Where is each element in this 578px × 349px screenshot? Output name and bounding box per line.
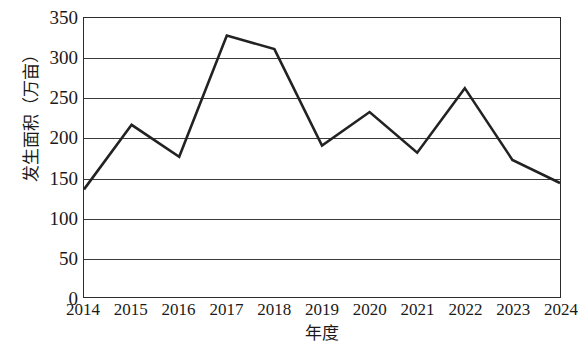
y-tick-label: 100: [30, 208, 78, 227]
y-tick-label: 250: [30, 88, 78, 107]
y-tick-label: 300: [30, 48, 78, 67]
y-tick-label: 200: [30, 128, 78, 147]
x-tick-label: 2019: [305, 301, 339, 320]
x-tick-label: 2022: [448, 301, 482, 320]
y-tick-label: 350: [30, 8, 78, 27]
x-tick-label: 2017: [209, 301, 243, 320]
x-tick-label: 2018: [257, 301, 291, 320]
x-tick-label: 2014: [66, 301, 100, 320]
x-tick-label: 2020: [353, 301, 387, 320]
plot-area: [83, 17, 561, 298]
y-axis-tick-labels: 050100150200250300350: [30, 0, 78, 349]
x-tick-label: 2023: [496, 301, 530, 320]
y-tick-label: 150: [30, 168, 78, 187]
x-tick-label: 2016: [162, 301, 196, 320]
series-line-occurrence-area: [84, 18, 560, 297]
y-tick-label: 50: [30, 248, 78, 267]
x-axis-title: 年度: [83, 325, 561, 342]
series-polyline: [84, 36, 560, 190]
x-tick-label: 2021: [401, 301, 435, 320]
x-tick-label: 2024: [544, 301, 578, 320]
x-tick-label: 2015: [114, 301, 148, 320]
